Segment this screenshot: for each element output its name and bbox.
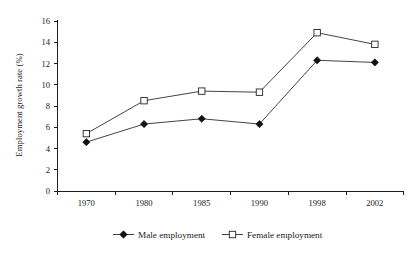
data-point-marker [372, 41, 378, 47]
data-point-marker [256, 89, 262, 95]
legend-female-label: Female employment [247, 230, 323, 240]
x-tick-label: 1970 [78, 198, 95, 208]
y-tick-label: 0 [46, 186, 50, 196]
data-point-marker [141, 97, 147, 103]
y-tick-label: 12 [41, 59, 50, 69]
legend-male-label: Male employment [138, 230, 206, 240]
chart-background [0, 0, 416, 255]
legend-female-square-icon [229, 231, 235, 237]
y-tick-label: 6 [46, 122, 51, 132]
y-tick-label: 10 [41, 80, 50, 90]
x-tick-label: 1980 [135, 198, 152, 208]
line-chart: Employment growth rate (%) 0 2 4 6 8 10 … [0, 0, 416, 255]
y-tick-label: 14 [41, 37, 50, 47]
y-tick-label: 2 [46, 165, 50, 175]
data-point-marker [314, 29, 320, 35]
y-axis-title: Employment growth rate (%) [14, 53, 24, 156]
x-tick-label: 2002 [366, 198, 383, 208]
y-tick-label: 8 [46, 101, 50, 111]
x-tick-label: 1985 [193, 198, 210, 208]
data-point-marker [199, 88, 205, 94]
x-tick-label: 1990 [251, 198, 268, 208]
y-tick-label: 4 [46, 144, 51, 154]
y-tick-label: 16 [41, 16, 50, 26]
data-point-marker [83, 130, 89, 136]
chart-figure: Employment growth rate (%) 0 2 4 6 8 10 … [0, 0, 416, 255]
x-tick-label: 1998 [309, 198, 326, 208]
